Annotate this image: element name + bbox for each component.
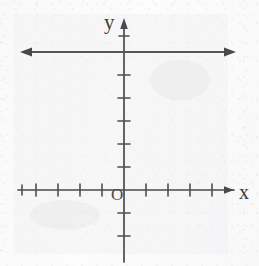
x-axis-label: x (239, 182, 249, 202)
x-axis (18, 186, 234, 194)
origin-label: O (111, 186, 123, 203)
function-arrowhead-right (224, 48, 236, 57)
y-axis-label: y (104, 12, 115, 33)
function-line-y-equals-6 (20, 48, 236, 57)
graph-canvas: y x O (0, 0, 259, 266)
coordinate-plane-svg (0, 0, 259, 266)
function-arrowhead-left (20, 48, 32, 57)
x-axis-arrowhead-right (224, 186, 234, 194)
y-axis (120, 18, 128, 262)
y-axis-arrowhead-up (120, 18, 128, 29)
